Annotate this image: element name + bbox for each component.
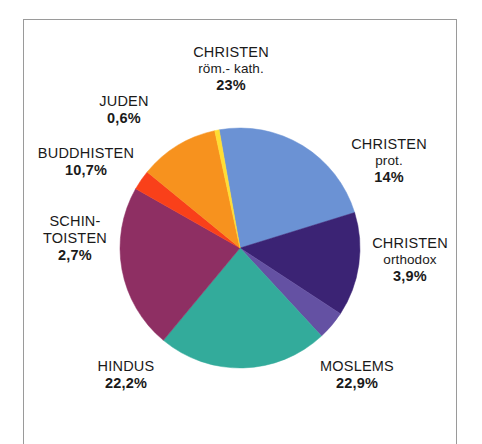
slice-label-schintoisten-name-line2: TOISTEN	[20, 230, 130, 247]
slice-label-prot: CHRISTEN prot. 14%	[330, 136, 448, 186]
slice-label-juden-value: 0,6%	[68, 110, 180, 127]
slice-label-roemkath: CHRISTEN röm.- kath. 23%	[168, 44, 294, 94]
slice-label-schintoisten-name-line1: SCHIN-	[20, 213, 130, 230]
slice-label-moslems: MOSLEMS 22,9%	[298, 358, 416, 392]
slice-label-moslems-value: 22,9%	[298, 375, 416, 392]
slice-label-buddhisten-name: BUDDHISTEN	[16, 145, 156, 162]
slice-label-roemkath-name: CHRISTEN	[168, 44, 294, 61]
slice-label-prot-sub: prot.	[330, 153, 448, 169]
slice-label-prot-value: 14%	[330, 169, 448, 186]
slice-label-hindus-value: 22,2%	[68, 375, 184, 392]
slice-label-moslems-name: MOSLEMS	[298, 358, 416, 375]
slice-label-buddhisten: BUDDHISTEN 10,7%	[16, 145, 156, 179]
slice-label-hindus-name: HINDUS	[68, 358, 184, 375]
slice-label-juden-name: JUDEN	[68, 93, 180, 110]
slice-label-roemkath-sub: röm.- kath.	[168, 61, 294, 77]
slice-label-juden: JUDEN 0,6%	[68, 93, 180, 127]
slice-label-buddhisten-value: 10,7%	[16, 162, 156, 179]
slice-label-roemkath-value: 23%	[168, 77, 294, 94]
slice-label-orthodox-sub: orthodox	[352, 252, 468, 268]
slice-label-prot-name: CHRISTEN	[330, 136, 448, 153]
slice-label-orthodox-name: CHRISTEN	[352, 235, 468, 252]
slice-label-orthodox: CHRISTEN orthodox 3,9%	[352, 235, 468, 285]
slice-label-schintoisten: SCHIN- TOISTEN 2,7%	[20, 213, 130, 264]
slice-label-orthodox-value: 3,9%	[352, 268, 468, 285]
slice-label-hindus: HINDUS 22,2%	[68, 358, 184, 392]
slice-label-schintoisten-value: 2,7%	[20, 247, 130, 264]
pie-slices-group	[120, 128, 360, 368]
